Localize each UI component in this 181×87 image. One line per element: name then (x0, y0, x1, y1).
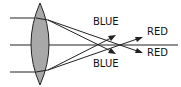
lens-ray-drawing (0, 0, 181, 87)
chromatic-aberration-diagram: BLUE BLUE RED RED (0, 0, 181, 87)
arrowhead-red-down (135, 48, 143, 53)
label-blue-bottom: BLUE (93, 59, 119, 69)
arrowhead-blue-up (108, 35, 116, 41)
convex-lens (31, 3, 49, 85)
label-red-top: RED (147, 27, 168, 37)
label-blue-top: BLUE (93, 17, 119, 27)
arrowhead-red-up (135, 37, 143, 42)
label-red-bottom: RED (147, 48, 168, 58)
